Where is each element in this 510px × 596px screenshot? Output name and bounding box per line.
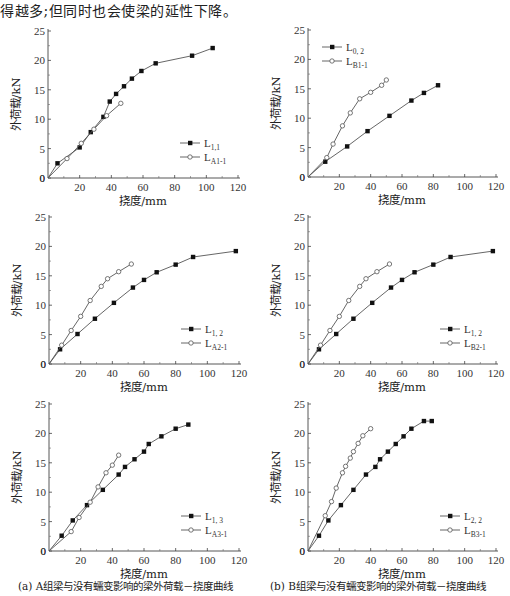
x-tick-label: 80 xyxy=(428,367,440,379)
data-point-square xyxy=(400,278,404,282)
legend-square-marker xyxy=(448,327,452,331)
legend: L1, 2LA2-1 xyxy=(181,323,227,352)
caption-a: (a) A组梁与没有蠕变影响的梁外荷载－挠度曲线 xyxy=(18,578,233,593)
legend-label: LA3-1 xyxy=(205,524,227,539)
data-point-circle xyxy=(59,343,63,347)
x-tick-label: 120 xyxy=(231,367,248,379)
data-point-square xyxy=(186,422,190,426)
x-axis-label: 挠度/mm xyxy=(120,380,168,394)
data-point-circle xyxy=(375,269,379,273)
y-axis-label: 外荷载/kN xyxy=(269,77,283,131)
x-tick-label: 20 xyxy=(334,367,346,379)
data-point-circle xyxy=(65,156,69,160)
legend-circle-marker xyxy=(189,341,193,345)
data-point-square xyxy=(430,419,434,423)
data-point-square xyxy=(409,98,413,102)
data-point-square xyxy=(345,144,349,148)
y-tick-label: 5 xyxy=(300,142,306,154)
x-tick-label: 40 xyxy=(106,181,118,193)
y-tick-label: 25 xyxy=(35,398,47,410)
data-point-square xyxy=(122,84,126,88)
data-point-square xyxy=(130,76,134,80)
data-point-circle xyxy=(337,314,341,318)
series-line xyxy=(308,421,432,551)
y-tick-label: 10 xyxy=(294,112,306,124)
data-point-square xyxy=(114,92,118,96)
data-point-square xyxy=(142,278,146,282)
x-tick-label: 60 xyxy=(138,181,150,193)
data-point-circle xyxy=(358,97,362,101)
data-point-circle xyxy=(351,449,355,453)
data-point-circle xyxy=(88,500,92,504)
y-tick-label: 5 xyxy=(300,329,306,341)
origin-label: 0 xyxy=(300,171,306,183)
data-point-square xyxy=(190,53,194,57)
y-axis-label: 外荷载/kN xyxy=(269,451,283,505)
legend-label: L1, 2 xyxy=(205,323,223,338)
legend-label: L0, 2 xyxy=(346,41,364,56)
x-tick-label: 20 xyxy=(74,181,86,193)
data-point-circle xyxy=(116,269,120,273)
data-point-circle xyxy=(356,441,360,445)
data-point-circle xyxy=(78,314,82,318)
y-axis-label: 外荷载/kN xyxy=(10,264,24,318)
data-point-square xyxy=(173,426,177,430)
y-tick-label: 15 xyxy=(34,84,46,96)
data-point-square xyxy=(389,285,393,289)
data-point-circle xyxy=(343,464,347,468)
data-point-square xyxy=(71,518,75,522)
data-point-circle xyxy=(348,456,352,460)
x-tick-label: 100 xyxy=(456,554,473,566)
legend-circle-marker xyxy=(448,528,452,532)
data-point-square xyxy=(159,434,163,438)
x-tick-label: 120 xyxy=(488,367,505,379)
x-tick-label: 40 xyxy=(107,554,119,566)
data-point-square xyxy=(131,285,135,289)
caption-b: (b) B组梁与没有蠕变影响的梁外荷载－挠度曲线 xyxy=(270,578,486,593)
data-point-circle xyxy=(129,262,133,266)
data-point-square xyxy=(123,465,127,469)
data-point-square xyxy=(422,419,426,423)
data-point-circle xyxy=(69,328,73,332)
y-tick-label: 25 xyxy=(34,25,46,37)
figure-canvas: 0510152025204060801001200挠度/mm外荷载/kNL1,1… xyxy=(0,0,510,596)
chart-a2: 0510152025204060801001200挠度/mm外荷载/kNL1, … xyxy=(10,211,248,394)
data-point-circle xyxy=(340,471,344,475)
x-tick-label: 20 xyxy=(334,180,346,192)
series-line xyxy=(308,80,386,177)
chart-b1: 0510152025204060801001200挠度/mm外荷载/kNL0, … xyxy=(269,24,505,207)
x-tick-label: 120 xyxy=(488,554,505,566)
y-tick-label: 10 xyxy=(35,299,47,311)
data-point-square xyxy=(386,449,390,453)
data-point-square xyxy=(132,457,136,461)
x-tick-label: 40 xyxy=(365,554,377,566)
data-point-square xyxy=(351,488,355,492)
x-axis-label: 挠度/mm xyxy=(378,380,426,394)
origin-label: 0 xyxy=(300,545,306,557)
data-point-circle xyxy=(99,284,103,288)
data-point-square xyxy=(154,270,158,274)
x-axis-label: 挠度/mm xyxy=(378,193,426,207)
y-tick-label: 5 xyxy=(41,516,47,528)
data-point-circle xyxy=(318,343,322,347)
series-line xyxy=(308,85,438,177)
data-point-square xyxy=(326,518,330,522)
data-point-circle xyxy=(325,155,329,159)
data-point-circle xyxy=(77,515,81,519)
origin-label: 0 xyxy=(41,545,47,557)
legend-label: L2, 2 xyxy=(464,510,482,525)
data-point-square xyxy=(412,270,416,274)
data-point-circle xyxy=(328,328,332,332)
data-point-square xyxy=(448,255,452,259)
y-tick-label: 20 xyxy=(35,240,47,252)
x-tick-label: 20 xyxy=(75,554,87,566)
legend-square-marker xyxy=(189,327,193,331)
y-tick-label: 5 xyxy=(41,329,47,341)
x-tick-label: 100 xyxy=(198,181,215,193)
chart-b3: 0510152025204060801001200挠度/mm外荷载/kNL2, … xyxy=(269,398,505,581)
x-tick-label: 60 xyxy=(397,367,409,379)
legend-label: L1, 2 xyxy=(464,323,482,338)
y-tick-label: 10 xyxy=(294,486,306,498)
y-tick-label: 25 xyxy=(35,211,47,223)
data-point-circle xyxy=(79,141,83,145)
